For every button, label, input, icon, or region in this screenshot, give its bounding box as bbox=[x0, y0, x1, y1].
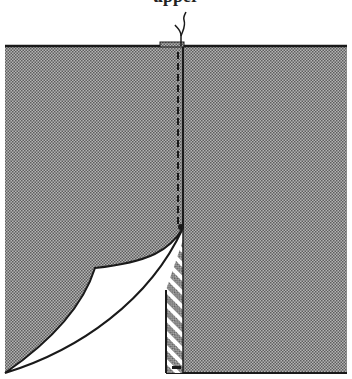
right-panel bbox=[160, 46, 347, 373]
stitch-knot bbox=[178, 224, 184, 230]
hatched-facing bbox=[166, 240, 183, 373]
thread-ends bbox=[175, 12, 186, 46]
bottom-tab bbox=[172, 366, 181, 369]
sewing-diagram bbox=[0, 0, 352, 379]
